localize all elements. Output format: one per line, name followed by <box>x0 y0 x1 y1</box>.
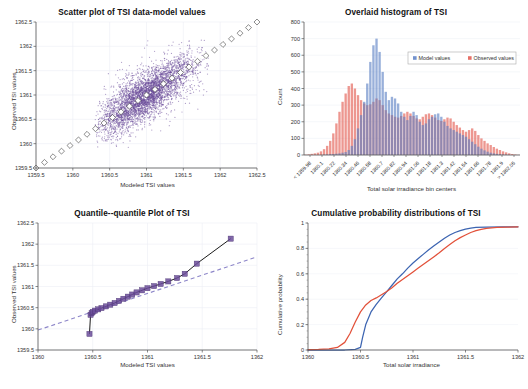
scatter-x-tick: 1360 <box>67 172 79 178</box>
qq-x-tick: 1362 <box>251 354 263 360</box>
scatter-x-tick: 1360.5 <box>101 172 118 178</box>
scatter-plot-panel: Scatter plot of TSI data-model values Ob… <box>0 0 264 195</box>
histogram-legend: Model valuesObserved values <box>408 52 516 64</box>
qq-y-axis-label: Observed TSI values <box>10 265 17 323</box>
cdf-panel: Cumulative probability distributions of … <box>264 195 528 389</box>
scatter-y-tick: 1362.5 <box>15 19 32 25</box>
scatter-plot-title: Scatter plot of TSI data-model values <box>0 8 264 17</box>
histogram-legend-label-0: Model values <box>419 55 451 61</box>
qq-plot-panel: Quantile--quantile Plot of TSI Observed … <box>0 195 264 389</box>
scatter-x-tick: 1361.5 <box>175 172 192 178</box>
scatter-x-tick: 1361 <box>140 172 152 178</box>
cdf-y-tick: 0.6 <box>296 271 304 277</box>
histogram-y-tick: 100 <box>291 135 300 141</box>
scatter-x-tick: 1362.5 <box>248 172 265 178</box>
scatter-x-tick: 1362 <box>214 172 226 178</box>
qq-x-tick: 1360.5 <box>84 354 101 360</box>
scatter-x-axis-label: Modeled TSI values <box>40 181 255 188</box>
cdf-grid <box>308 223 518 350</box>
histogram-title: Overlaid histogram of TSI <box>264 8 528 17</box>
cdf-title: Cumulative probability distributions of … <box>264 209 528 218</box>
scatter-y-tick: 1362 <box>20 43 32 49</box>
qq-y-tick: 1360.5 <box>17 305 34 311</box>
qq-x-tick: 1360 <box>32 354 44 360</box>
cdf-curve-model <box>308 227 518 350</box>
qq-y-tick: 1361 <box>22 284 34 290</box>
qq-plot-svg: 13601360.513611361.513621359.513601360.5… <box>0 195 264 389</box>
scatter-y-tick: 1360 <box>20 141 32 147</box>
histogram-y-tick: 500 <box>291 69 300 75</box>
cdf-x-axis-label: Total solar irradiance <box>304 361 519 368</box>
cdf-x-tick: 1361 <box>407 354 419 360</box>
histogram-y-tick: 0 <box>297 152 300 158</box>
cdf-x-tick: 1362 <box>512 354 524 360</box>
cdf-y-tick: 0.4 <box>296 296 304 302</box>
scatter-y-tick: 1361 <box>20 92 32 98</box>
qq-y-tick: 1360 <box>22 326 34 332</box>
cdf-x-tick: 1361.5 <box>457 354 474 360</box>
qq-y-tick: 1361.5 <box>17 262 34 268</box>
histogram-panel: Overlaid histogram of TSI Count Total so… <box>264 0 528 195</box>
qq-y-tick: 1362.5 <box>17 220 34 226</box>
scatter-y-tick: 1361.5 <box>15 68 32 74</box>
cdf-y-tick: 1 <box>301 220 304 226</box>
cdf-x-tick: 1360 <box>302 354 314 360</box>
qq-plot-title: Quantile--quantile Plot of TSI <box>0 209 264 218</box>
qq-y-tick: 1359.5 <box>17 347 34 353</box>
scatter-y-tick: 1360.5 <box>15 116 32 122</box>
histogram-bars-observed <box>304 84 519 156</box>
histogram-y-tick: 400 <box>291 86 300 92</box>
scatter-plot-svg: 1359.513601360.513611361.513621362.51359… <box>0 0 264 195</box>
scatter-y-axis-label: Observed TSI values <box>10 72 17 130</box>
cdf-y-tick: 0 <box>301 347 304 353</box>
cdf-svg: 13601360.513611361.5136200.20.40.60.81 <box>264 195 528 389</box>
histogram-y-tick: 200 <box>291 119 300 125</box>
cdf-y-axis-label: Cumulative probability <box>276 274 283 335</box>
qq-x-tick: 1361.5 <box>194 354 211 360</box>
cdf-y-tick: 0.8 <box>296 245 304 251</box>
histogram-y-tick: 300 <box>291 102 300 108</box>
scatter-points <box>95 40 209 148</box>
histogram-y-tick: 700 <box>291 36 300 42</box>
cdf-x-tick: 1360.5 <box>352 354 369 360</box>
qq-x-axis-label: Modeled TSI values <box>40 361 255 368</box>
cdf-y-tick: 0.2 <box>296 322 304 328</box>
histogram-y-axis-label: Count <box>276 88 283 105</box>
scatter-x-tick: 1359.5 <box>27 172 44 178</box>
cdf-curve-observed <box>308 227 518 350</box>
histogram-legend-label-1: Observed values <box>474 55 515 61</box>
scatter-y-tick: 1359.5 <box>15 165 32 171</box>
histogram-y-tick: 800 <box>291 19 300 25</box>
histogram-y-tick: 600 <box>291 52 300 58</box>
qq-x-tick: 1361 <box>141 354 153 360</box>
qq-y-tick: 1362 <box>22 241 34 247</box>
